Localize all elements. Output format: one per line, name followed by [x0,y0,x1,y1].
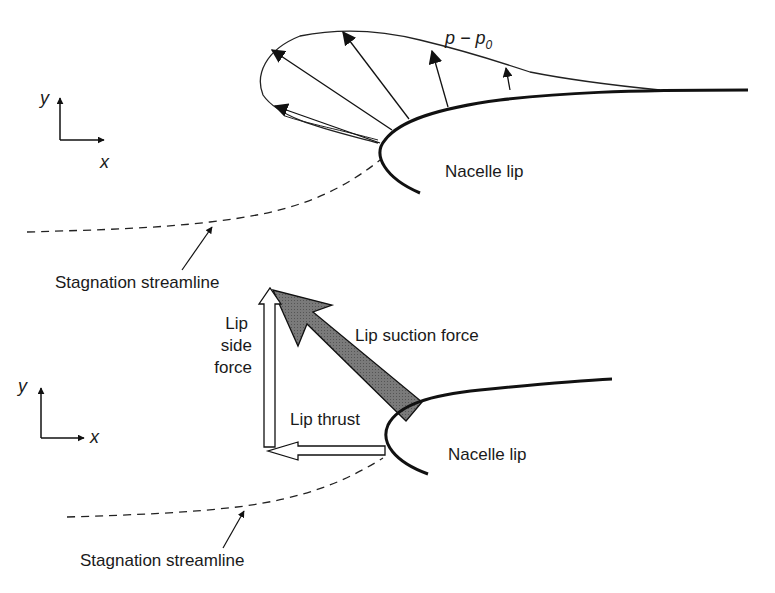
lip-side-force-arrow [259,288,281,447]
bottom-axes-icon: y x [16,376,100,447]
pressure-arrows [272,32,510,143]
lip-suction-force-label: Lip suction force [355,326,479,345]
top-x-axis-label: x [99,152,110,172]
top-stagnation-streamline [27,160,380,232]
top-nacelle-lip-label: Nacelle lip [445,162,523,181]
lip-side-force-label-line3: force [214,358,252,377]
bottom-y-axis-label: y [16,376,28,396]
nacelle-lip-force-diagram: y x p − p0 Nacelle lip Stagnation stream… [0,0,775,593]
top-y-axis-label: y [38,88,50,108]
lip-thrust-label: Lip thrust [290,410,360,429]
lip-suction-force-arrow [273,290,422,421]
bottom-stagnation-streamline-label: Stagnation streamline [80,551,244,570]
bottom-x-axis-label: x [89,427,100,447]
lip-side-force-label-line2: side [221,336,252,355]
bottom-panel: y x Lip suction force Lip side force Lip… [16,288,612,570]
top-streamline-pointer-arrow [182,227,212,270]
top-nacelle-lip-outline [380,90,748,193]
bottom-stagnation-streamline [67,458,383,517]
bottom-nacelle-lip-label: Nacelle lip [448,445,526,464]
top-stagnation-streamline-label: Stagnation streamline [55,273,219,292]
top-panel: y x p − p0 Nacelle lip Stagnation stream… [27,28,748,292]
bottom-streamline-pointer-arrow [223,511,244,548]
lip-side-force-label-line1: Lip [225,314,248,333]
top-axes-icon: y x [38,88,110,172]
lip-thrust-arrow [268,442,385,460]
